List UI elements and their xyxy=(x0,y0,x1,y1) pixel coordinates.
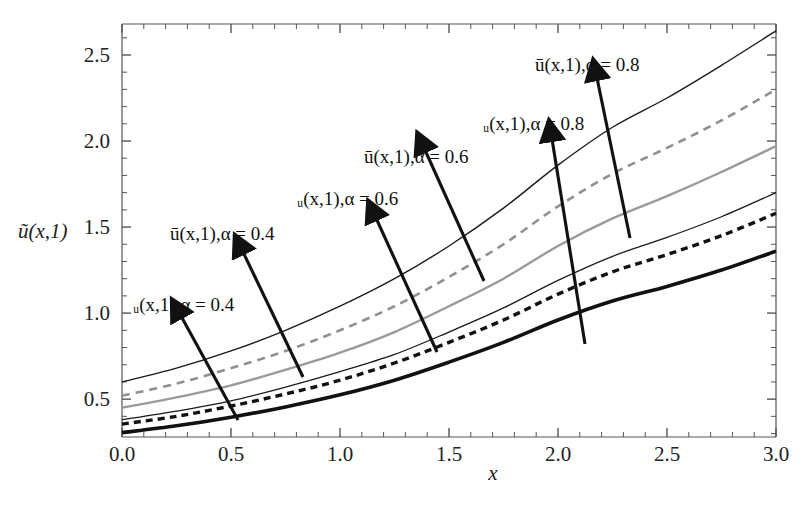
curve-label-lower-alpha-04: ᵤ(x,1),α = 0.4 xyxy=(133,294,235,316)
y-tick-label: 1.5 xyxy=(84,215,110,239)
curve-label-lower-alpha-08: ᵤ(x,1),α = 0.8 xyxy=(483,113,584,135)
y-tick-label: 2.5 xyxy=(84,43,110,67)
x-axis-title: x xyxy=(487,461,498,485)
curve-label-lower-alpha-06: ᵤ(x,1),α = 0.6 xyxy=(297,188,398,210)
x-tick-label: 0.5 xyxy=(218,442,244,466)
curve-label-upper-alpha-04: ū(x,1),α = 0.4 xyxy=(170,223,275,245)
x-tick-label: 1.5 xyxy=(436,442,462,466)
x-tick-label: 0.0 xyxy=(109,442,135,466)
x-tick-label: 2.0 xyxy=(545,442,571,466)
x-tick-label: 3.0 xyxy=(763,442,789,466)
x-tick-label: 1.0 xyxy=(327,442,353,466)
curve-upper-alpha-04 xyxy=(122,146,776,408)
curve-annotation-labels: ᵤ(x,1),α = 0.4ū(x,1),α = 0.4ᵤ(x,1),α = 0… xyxy=(133,54,640,316)
line-chart: 0.00.51.01.52.02.53.0 0.51.01.52.02.5 ũ(… xyxy=(0,0,804,520)
y-tick-label: 0.5 xyxy=(84,387,110,411)
y-tick-label: 2.0 xyxy=(84,129,110,153)
curve-label-upper-alpha-08: ū(x,1),α = 0.8 xyxy=(535,54,640,76)
x-tick-labels: 0.00.51.01.52.02.53.0 xyxy=(109,442,789,466)
figure-container: 0.00.51.01.52.02.53.0 0.51.01.52.02.5 ũ(… xyxy=(0,0,804,520)
curve-label-upper-alpha-06: ū(x,1),α = 0.6 xyxy=(364,146,469,168)
x-tick-label: 2.5 xyxy=(654,442,680,466)
y-axis-title: ũ(x,1) xyxy=(18,219,68,243)
curve-lower-alpha-06 xyxy=(122,213,776,424)
y-tick-label: 1.0 xyxy=(84,301,110,325)
y-tick-labels: 0.51.01.52.02.5 xyxy=(84,43,110,411)
